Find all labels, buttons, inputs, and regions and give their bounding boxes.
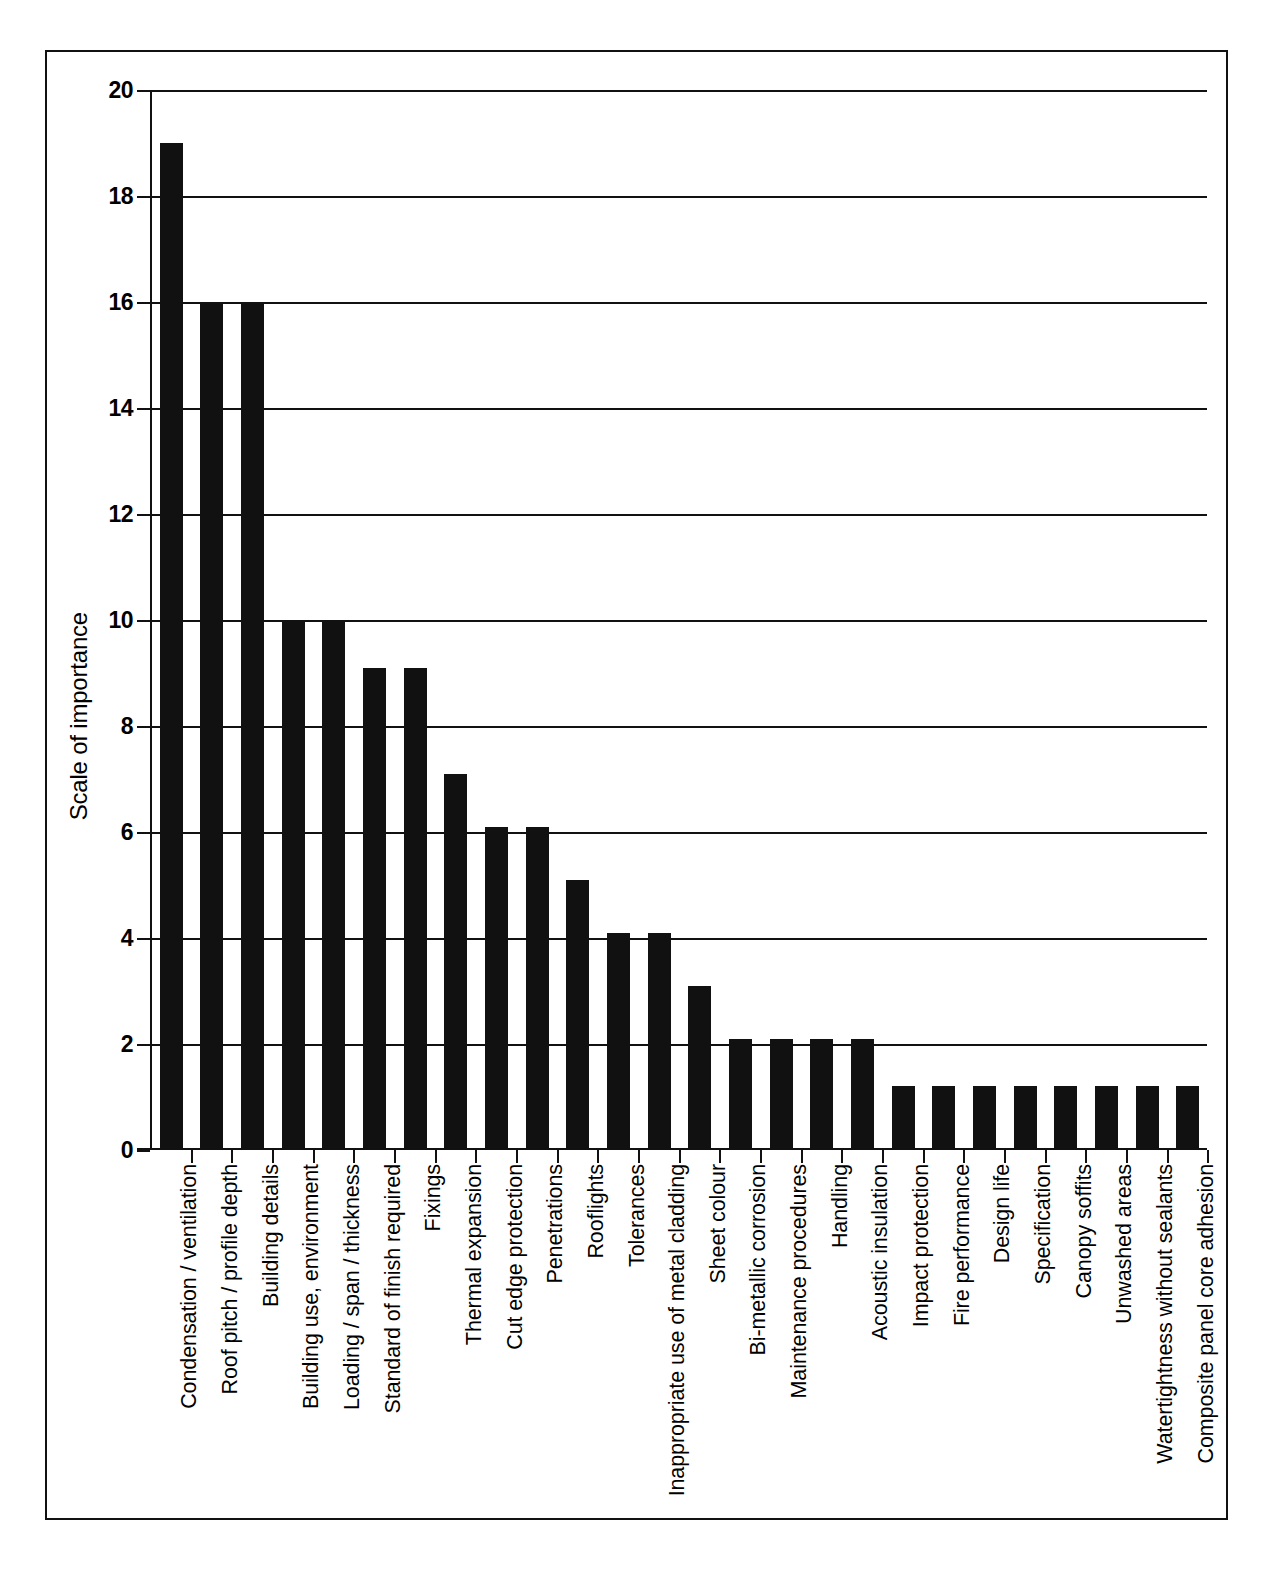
bar	[241, 302, 264, 1150]
x-tick-mark	[963, 1150, 965, 1163]
bar	[607, 933, 630, 1150]
x-tick-mark	[557, 1150, 559, 1163]
x-axis-category-label: Maintenance procedures	[789, 1164, 811, 1398]
bar	[1014, 1086, 1037, 1150]
y-tick-mark	[137, 196, 150, 198]
x-tick-mark	[1045, 1150, 1047, 1163]
bar	[160, 143, 183, 1150]
bar	[1054, 1086, 1077, 1150]
y-tick-mark	[137, 938, 150, 940]
x-axis-category-label: Specification	[1033, 1164, 1055, 1285]
y-tick-mark	[137, 514, 150, 516]
x-tick-mark	[272, 1150, 274, 1163]
y-tick-label: 18	[108, 183, 133, 210]
y-tick-label: 14	[108, 395, 133, 422]
x-axis-category-label: Composite panel core adhesion	[1196, 1164, 1218, 1464]
x-tick-mark	[719, 1150, 721, 1163]
x-tick-mark	[679, 1150, 681, 1163]
x-axis-category-label: Thermal expansion	[464, 1164, 486, 1345]
bar	[566, 880, 589, 1150]
x-tick-mark	[760, 1150, 762, 1163]
y-tick-mark	[137, 620, 150, 622]
bar	[363, 668, 386, 1150]
x-tick-mark	[1004, 1150, 1006, 1163]
y-tick-mark	[137, 832, 150, 834]
bar	[485, 827, 508, 1150]
bar	[932, 1086, 955, 1150]
x-axis-category-label: Fixings	[423, 1164, 445, 1231]
bars-group	[150, 90, 1207, 1150]
x-axis-category-label: Design life	[992, 1164, 1014, 1263]
x-tick-mark	[394, 1150, 396, 1163]
x-tick-mark	[1085, 1150, 1087, 1163]
y-tick-label: 16	[108, 289, 133, 316]
y-tick-mark	[137, 1150, 150, 1152]
bar	[1095, 1086, 1118, 1150]
x-tick-mark	[516, 1150, 518, 1163]
bar	[1176, 1086, 1199, 1150]
x-axis-category-label: Loading / span / thickness	[342, 1164, 364, 1410]
bar	[526, 827, 549, 1150]
x-axis-category-label: Inappropriate use of metal cladding	[667, 1164, 689, 1496]
x-tick-mark	[353, 1150, 355, 1163]
bar	[729, 1039, 752, 1150]
bar	[892, 1086, 915, 1150]
x-axis-category-label: Sheet colour	[708, 1164, 730, 1284]
bar	[770, 1039, 793, 1150]
bar	[282, 620, 305, 1150]
y-axis-title: Scale of importance	[65, 612, 93, 820]
bar	[810, 1039, 833, 1150]
x-axis-category-label: Unwashed areas	[1114, 1164, 1136, 1324]
y-tick-mark	[137, 302, 150, 304]
x-tick-mark	[313, 1150, 315, 1163]
x-tick-mark	[435, 1150, 437, 1163]
bar	[851, 1039, 874, 1150]
x-tick-mark	[801, 1150, 803, 1163]
x-tick-mark	[638, 1150, 640, 1163]
x-tick-mark	[841, 1150, 843, 1163]
x-tick-mark	[923, 1150, 925, 1163]
figure-frame: Scale of importance 02468101214161820 Co…	[45, 50, 1228, 1520]
bar	[973, 1086, 996, 1150]
x-axis-category-label: Penetrations	[545, 1164, 567, 1284]
x-axis-category-label: Standard of finish required	[383, 1164, 405, 1413]
y-tick-mark	[137, 726, 150, 728]
y-tick-mark	[137, 408, 150, 410]
y-tick-label: 8	[121, 713, 133, 740]
x-tick-mark	[231, 1150, 233, 1163]
x-axis-category-label: Fire performance	[952, 1164, 974, 1326]
bar	[404, 668, 427, 1150]
x-tick-mark	[1207, 1150, 1209, 1163]
x-axis-category-label: Cut edge protection	[505, 1164, 527, 1350]
bar	[444, 774, 467, 1150]
bar	[648, 933, 671, 1150]
x-axis-category-label: Roof pitch / profile depth	[220, 1164, 242, 1394]
x-axis-category-label: Building use, environment	[301, 1164, 323, 1409]
y-tick-mark	[137, 1044, 150, 1046]
x-axis-category-label: Tolerances	[627, 1164, 649, 1267]
x-axis-category-label: Rooflights	[586, 1164, 608, 1259]
x-axis-category-label: Impact protection	[911, 1164, 933, 1327]
y-tick-mark	[137, 90, 150, 92]
y-tick-label: 6	[121, 819, 133, 846]
x-tick-mark	[191, 1150, 193, 1163]
bar	[1136, 1086, 1159, 1150]
bar	[200, 302, 223, 1150]
plot-area: 02468101214161820	[150, 90, 1207, 1150]
x-tick-mark	[882, 1150, 884, 1163]
x-axis-category-label: Condensation / ventilation	[179, 1164, 201, 1409]
x-axis-category-label: Acoustic insulation	[870, 1164, 892, 1340]
y-tick-label: 10	[108, 607, 133, 634]
x-axis-category-label: Building details	[261, 1164, 283, 1307]
x-axis-category-label: Handling	[830, 1164, 852, 1248]
y-tick-label: 0	[121, 1137, 133, 1164]
x-tick-mark	[475, 1150, 477, 1163]
x-axis-labels: Condensation / ventilationRoof pitch / p…	[150, 1164, 1207, 1504]
x-tick-mark	[1126, 1150, 1128, 1163]
x-tick-mark	[597, 1150, 599, 1163]
y-tick-label: 2	[121, 1031, 133, 1058]
x-axis-category-label: Canopy soffits	[1074, 1164, 1096, 1298]
bar	[322, 620, 345, 1150]
y-tick-label: 20	[108, 77, 133, 104]
x-tick-mark	[1167, 1150, 1169, 1163]
